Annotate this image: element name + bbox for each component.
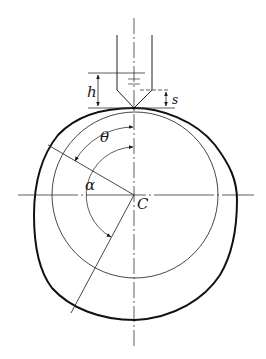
diagram-canvas: h s θ α C	[0, 0, 266, 359]
s-label: s	[172, 93, 178, 107]
alpha-radial-line	[71, 195, 134, 313]
alpha-label: α	[85, 176, 95, 194]
knife-edge-follower	[117, 35, 152, 110]
theta-label: θ	[100, 128, 109, 146]
h-label: h	[87, 83, 97, 101]
cam-profile-curve	[34, 108, 237, 320]
diagram-svg: h s θ α C	[0, 0, 266, 359]
center-label: C	[137, 195, 149, 213]
